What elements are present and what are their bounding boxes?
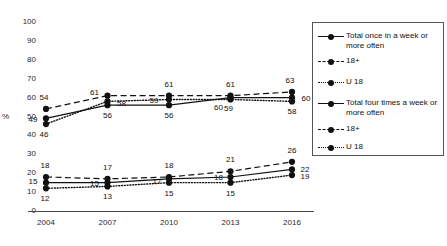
data-label: 26 bbox=[288, 147, 297, 155]
data-label: 63 bbox=[286, 77, 295, 85]
data-label: 46 bbox=[40, 131, 49, 139]
legend-label: 18+ bbox=[344, 56, 360, 66]
data-label: 12 bbox=[41, 195, 50, 203]
data-label: 17 bbox=[103, 164, 112, 172]
data-point bbox=[43, 185, 49, 191]
data-label: 18 bbox=[214, 174, 223, 182]
legend-symbol-solid-line-icon bbox=[318, 32, 344, 42]
x-axis-line bbox=[28, 211, 314, 212]
x-axis-tick-2016: 2016 bbox=[272, 219, 312, 227]
data-point bbox=[227, 174, 233, 180]
data-label: 49 bbox=[29, 116, 38, 124]
data-point bbox=[43, 121, 49, 127]
legend-marker-dot-icon bbox=[328, 127, 334, 133]
data-label: 58 bbox=[117, 100, 126, 108]
data-label: 61 bbox=[165, 81, 174, 89]
data-point bbox=[166, 174, 172, 180]
data-point bbox=[43, 115, 49, 121]
data-label: 60 bbox=[302, 95, 311, 103]
data-point bbox=[166, 96, 172, 102]
data-point bbox=[104, 93, 110, 99]
x-axis-tick-2010: 2010 bbox=[149, 219, 189, 227]
data-label: 54 bbox=[40, 94, 49, 102]
data-label: 19 bbox=[301, 173, 310, 181]
data-label: 59 bbox=[150, 97, 159, 105]
data-point bbox=[227, 96, 233, 102]
data-point bbox=[227, 180, 233, 186]
legend: Total once in a week or more often18+U 1… bbox=[312, 22, 444, 156]
legend-symbol-dashed-line-icon bbox=[318, 125, 344, 135]
legend-label: Total once in a week or more often bbox=[344, 31, 443, 50]
data-label: 56 bbox=[165, 112, 174, 120]
data-label: 13 bbox=[103, 193, 112, 201]
data-label: 17 bbox=[153, 178, 162, 186]
data-point bbox=[289, 172, 295, 178]
data-label: 61 bbox=[90, 89, 99, 97]
legend-item-0[interactable]: Total once in a week or more often bbox=[318, 31, 443, 50]
legend-symbol-dotted-line-icon bbox=[318, 143, 344, 153]
legend-marker-dot-icon bbox=[328, 80, 334, 86]
data-point bbox=[289, 98, 295, 104]
data-label: 56 bbox=[103, 112, 112, 120]
data-label: 21 bbox=[226, 156, 235, 164]
legend-item-5[interactable]: U 18 bbox=[318, 142, 363, 153]
data-point bbox=[289, 89, 295, 95]
legend-label: U 18 bbox=[344, 77, 363, 87]
data-label: 15 bbox=[90, 180, 99, 188]
data-point bbox=[289, 159, 295, 165]
legend-symbol-dashed-line-icon bbox=[318, 57, 344, 67]
data-point bbox=[289, 166, 295, 172]
data-point bbox=[104, 98, 110, 104]
x-axis-tick-2004: 2004 bbox=[26, 219, 66, 227]
data-point bbox=[43, 180, 49, 186]
data-label: 58 bbox=[288, 108, 297, 116]
x-axis-tick-2013: 2013 bbox=[211, 219, 251, 227]
data-label: 18 bbox=[165, 162, 174, 170]
data-label: 60 bbox=[214, 104, 223, 112]
data-point bbox=[104, 183, 110, 189]
legend-label: 18+ bbox=[344, 124, 360, 134]
data-label: 18 bbox=[41, 162, 50, 170]
data-label: 15 bbox=[226, 190, 235, 198]
data-point bbox=[43, 174, 49, 180]
legend-marker-dot-icon bbox=[328, 145, 334, 151]
legend-marker-dot-icon bbox=[328, 101, 334, 107]
legend-label: Total four times a week or more often bbox=[344, 98, 443, 117]
data-point bbox=[166, 102, 172, 108]
data-point bbox=[104, 176, 110, 182]
legend-item-3[interactable]: Total four times a week or more often bbox=[318, 98, 443, 117]
legend-symbol-solid-line-icon bbox=[318, 99, 344, 109]
legend-label: U 18 bbox=[344, 142, 363, 152]
legend-marker-dot-icon bbox=[328, 34, 334, 40]
legend-item-4[interactable]: 18+ bbox=[318, 124, 360, 135]
data-label: 59 bbox=[224, 105, 233, 113]
data-label: 61 bbox=[226, 81, 235, 89]
legend-marker-dot-icon bbox=[328, 59, 334, 65]
legend-item-2[interactable]: U 18 bbox=[318, 77, 363, 88]
data-label: 15 bbox=[29, 178, 38, 186]
legend-symbol-dotted-line-icon bbox=[318, 78, 344, 88]
legend-item-1[interactable]: 18+ bbox=[318, 56, 360, 67]
x-axis-tick-2007: 2007 bbox=[88, 219, 128, 227]
data-point bbox=[227, 168, 233, 174]
data-point bbox=[43, 106, 49, 112]
chart-container: 1009080706050403020100 % 495656606054616… bbox=[0, 0, 447, 246]
data-label: 15 bbox=[165, 190, 174, 198]
data-point bbox=[166, 180, 172, 186]
